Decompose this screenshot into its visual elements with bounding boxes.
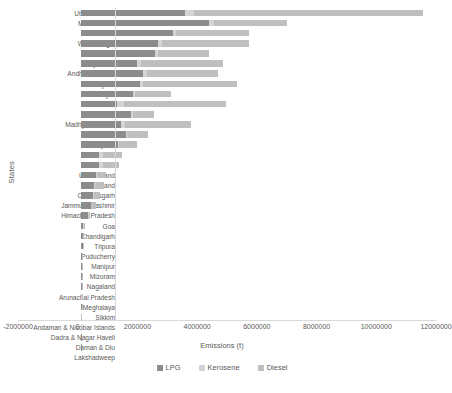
bar-segment-lpg [81,212,88,219]
bar-segment-lpg [81,70,144,77]
bar-segment-lpg [81,91,133,98]
category-label: Nagaland [18,283,118,290]
category-label: Goa [18,223,118,230]
stacked-bar[interactable] [81,141,137,148]
bar-row: Goa [18,221,436,231]
stacked-bar[interactable] [81,283,82,290]
stacked-bar[interactable] [81,10,424,17]
stacked-bar[interactable] [81,162,119,169]
category-label: Himachal Pradesh [18,212,118,219]
bar-row: Maharashtra [18,18,436,28]
legend-label: Kerosene [208,363,240,372]
stacked-bar[interactable] [81,172,107,179]
stacked-bar[interactable] [81,223,85,230]
x-axis-title-label: Emissions (t) [200,341,243,350]
bar-row: West Bengal [18,38,436,48]
bar-track [118,272,436,282]
bar-row: Haryana [18,140,436,150]
stacked-bar[interactable] [81,243,84,250]
bar-track [118,282,436,292]
bar-track [118,191,436,201]
stacked-bar[interactable] [81,253,83,260]
stacked-bar[interactable] [81,70,219,77]
bar-row: Karnataka [18,49,436,59]
stacked-bar[interactable] [81,60,223,67]
category-label: Tripura [18,243,118,250]
stacked-bar[interactable] [81,20,287,27]
legend-swatch-lpg [157,365,163,371]
bar-segment-lpg [81,30,174,37]
bar-segment-die [124,101,226,108]
bar-track [118,353,436,363]
bar-row: Assam [18,160,436,170]
stacked-bar[interactable] [81,233,84,240]
bar-row: Madhya Pradesh [18,120,436,130]
stacked-bar[interactable] [81,212,91,219]
bar-track [118,8,436,18]
stacked-bar[interactable] [81,304,83,311]
bar-row: Rajasthan [18,59,436,69]
stacked-bar[interactable] [81,182,105,189]
bar-segment-lpg [81,182,94,189]
x-tick-label: 4000000 [184,323,211,330]
legend-item[interactable]: Kerosene [199,363,240,372]
stacked-bar[interactable] [81,101,226,108]
legend-item[interactable]: Diesel [258,363,288,372]
stacked-bar[interactable] [81,294,82,301]
y-axis-title: States [4,132,18,212]
category-label: Jammu & Kashmir [18,202,118,209]
chart-legend: LPGKeroseneDiesel [0,363,444,372]
bar-segment-lpg [81,152,100,159]
bar-row: Meghalaya [18,302,436,312]
legend-item[interactable]: LPG [157,363,181,372]
stacked-bar[interactable] [81,40,249,47]
bar-track [118,150,436,160]
bar-segment-lpg [81,202,91,209]
bar-segment-lpg [81,172,96,179]
stacked-bar[interactable] [81,202,97,209]
stacked-bar[interactable] [81,91,171,98]
bar-track [118,89,436,99]
bar-segment-lpg [81,50,156,57]
bar-segment-die [94,192,101,199]
bar-row: Jharkhand [18,180,436,190]
category-label: Puducherry [18,253,118,260]
category-label: Mizoram [18,273,118,280]
stacked-bar[interactable] [81,192,101,199]
bar-segment-lpg [81,141,118,148]
bar-row: Gujarat [18,79,436,89]
bar-segment-die [133,111,154,118]
stacked-bar[interactable] [81,30,250,37]
bar-segment-die [119,141,137,148]
bar-segment-die [125,121,191,128]
zero-baseline [115,8,116,320]
bar-segment-die [95,182,105,189]
bar-segment-lpg [81,40,159,47]
bar-segment-die [103,162,119,169]
bar-track [118,28,436,38]
x-tick-label: 12000000 [420,323,451,330]
bar-row: Puducherry [18,251,436,261]
bar-row: Kerala [18,130,436,140]
bar-track [118,241,436,251]
stacked-bar[interactable] [81,50,209,57]
bar-track [118,251,436,261]
x-tick-label: 0 [76,323,80,330]
legend-label: Diesel [267,363,288,372]
stacked-bar[interactable] [81,81,238,88]
stacked-bar[interactable] [81,263,83,270]
bar-row: Mizoram [18,272,436,282]
category-label: Chhattisgarh [18,192,118,199]
bar-track [118,99,436,109]
y-axis-title-label: States [7,161,16,183]
stacked-bar[interactable] [81,273,82,280]
bar-row: Bihar [18,99,436,109]
bar-segment-die [127,131,148,138]
stacked-bar[interactable] [81,121,191,128]
category-label: Chandigarh [18,233,118,240]
category-label: Dadra & Nagar Haveli [18,334,118,341]
stacked-bar[interactable] [81,111,154,118]
bar-segment-die [83,243,84,250]
bar-segment-die [143,81,237,88]
bar-row: Chhattisgarh [18,191,436,201]
